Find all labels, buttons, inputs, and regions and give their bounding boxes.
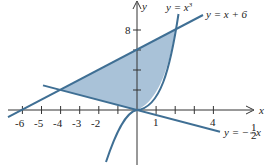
y-axis-label: y (141, 0, 147, 12)
label-lower-prefix: y = − (223, 126, 249, 138)
x-axis-label: x (258, 104, 264, 116)
x-tick-label: -4 (53, 117, 63, 129)
x-tick-label: 1 (153, 116, 159, 128)
region-diagram: -6 -5 -4 -3 -2 1 4 8 x y y = x3 y = x + … (0, 0, 271, 165)
shaded-region (61, 30, 176, 110)
x-tick-label: -2 (91, 117, 100, 129)
x-tick-label: -5 (34, 117, 44, 129)
label-cubic: y = x3 (165, 1, 193, 13)
x-tick-label: 4 (210, 116, 216, 128)
label-lower-suffix: x (255, 126, 261, 138)
x-tick-label: -6 (15, 117, 25, 129)
label-cubic-base: y = x (165, 1, 189, 13)
y-tick-label: 8 (125, 24, 131, 36)
label-cubic-exp: 3 (188, 1, 193, 9)
label-line-lower: y = − (223, 126, 249, 138)
label-line-upper: y = x + 6 (205, 8, 248, 20)
x-tick-label: -3 (72, 117, 82, 129)
